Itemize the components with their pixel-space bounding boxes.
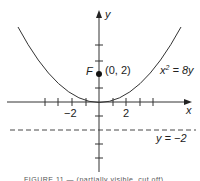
x-tick-label-neg2: −2 (64, 107, 77, 119)
focus-coords: (0, 2) (105, 64, 131, 76)
y-axis-arrow-icon (96, 10, 102, 18)
y-axis-label: y (104, 8, 112, 20)
curve-equation: x2 = 8y (159, 64, 195, 76)
focus-label: F (86, 65, 94, 77)
x-axis-label: x (185, 104, 192, 116)
x-tick-label-2: 2 (123, 107, 129, 119)
figure-caption: FIGURE 11 — (partially visible, cut off) (24, 176, 164, 181)
directrix-label: y = −2 (155, 132, 187, 144)
focus-point (96, 71, 102, 77)
parabola-diagram: y x −2 2 F (0, 2) x2 = 8y y = −2 FIGURE … (0, 0, 200, 181)
